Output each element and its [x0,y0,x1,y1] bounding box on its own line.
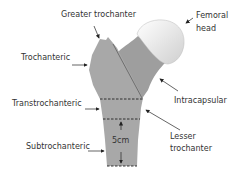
label-measure-5cm: 5cm [112,136,129,146]
greater-trochanter-arrow [94,26,99,38]
label-femoral-head-2: head [196,24,216,34]
label-intracapsular: Intracapsular [174,96,227,106]
femoral-head-arrow [186,18,193,23]
label-subtrochanteric: Subtrochanteric [26,142,90,152]
lesser-trochanter-arrow [146,110,180,130]
label-trochanteric: Trochanteric [21,53,70,63]
intracapsular-arrow [160,79,178,91]
label-greater-trochanter: Greater trochanter [61,10,136,20]
label-lesser-trochanter-2: trochanter [170,144,212,154]
label-femoral-head-1: Femoral [196,11,228,21]
label-transtrochanteric: Transtrochanteric [12,99,82,109]
label-lesser-trochanter-1: Lesser [170,132,196,142]
